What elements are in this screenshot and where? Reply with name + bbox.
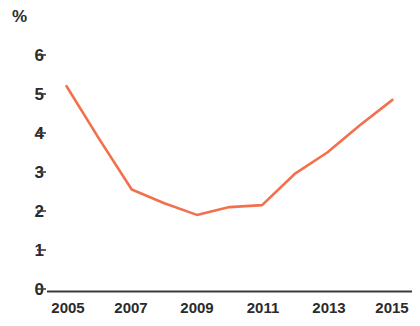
y-axis-tick-marks [37, 55, 46, 289]
data-series-line [67, 86, 393, 215]
line-chart: % 6 5 4 3 2 1 0 2005 2007 2009 2011 2013… [0, 0, 420, 326]
chart-plot-area [0, 0, 420, 326]
